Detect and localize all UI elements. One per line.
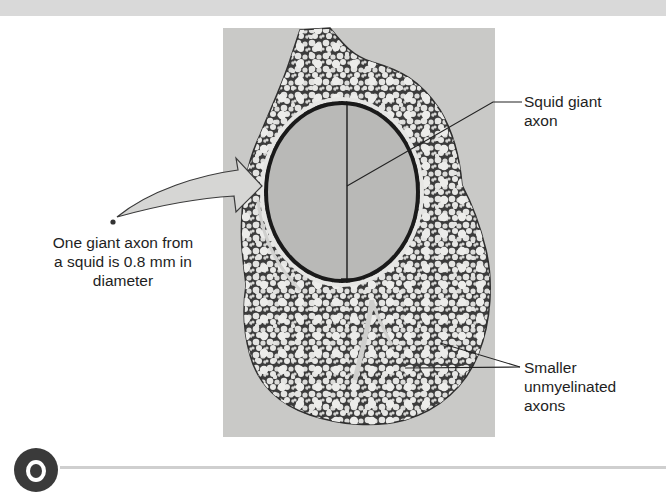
giant-axon [262,99,422,285]
callout-line: One giant axon from [28,233,218,252]
section-badge-icon [14,448,58,492]
bottom-divider [60,466,666,469]
label-squid-giant-axon: Squid giant axon [524,92,664,130]
label-line: Squid giant [524,92,664,111]
callout-axon-diameter: One giant axon from a squid is 0.8 mm in… [28,233,218,290]
label-line: unmyelinated [524,377,664,396]
callout-arrow [110,158,262,225]
label-line: axon [524,111,664,130]
callout-line: diameter [28,271,218,290]
callout-line: a squid is 0.8 mm in [28,252,218,271]
label-line: axons [524,396,664,415]
callout-dot [110,219,115,224]
label-line: Smaller [524,358,664,377]
label-smaller-unmyelinated-axons: Smaller unmyelinated axons [524,358,664,415]
